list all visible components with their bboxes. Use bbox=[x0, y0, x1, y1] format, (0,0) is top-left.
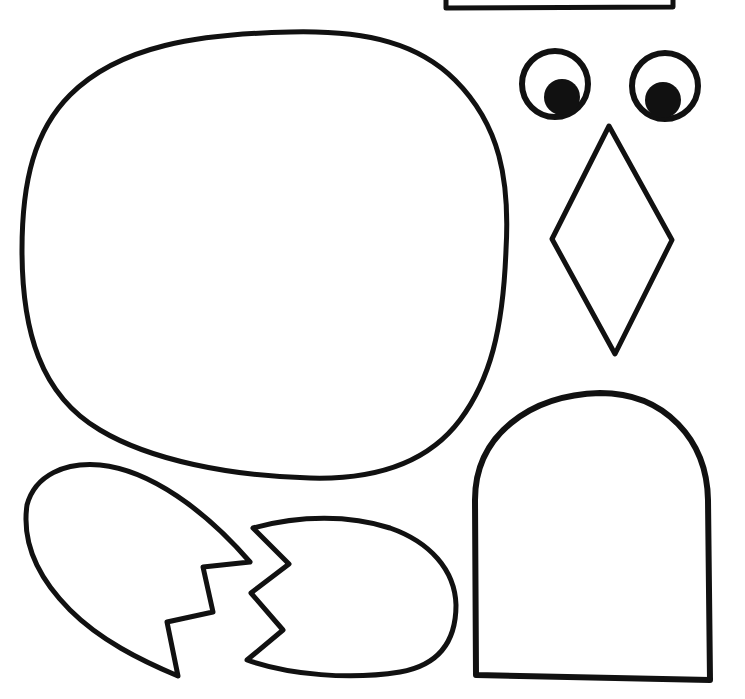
arch-piece-shape: Arch-shaped piece bbox=[475, 393, 710, 680]
beak-shape: Diamond beak bbox=[552, 126, 672, 354]
eye-left-shape: Left googly eye bbox=[522, 51, 588, 117]
craft-template-canvas: Partial rectangle (cut off at top) Round… bbox=[0, 0, 745, 699]
egg-shell-right-shape: Right egg shell half bbox=[247, 518, 456, 676]
pupil-right bbox=[645, 82, 681, 118]
top-rectangle-shape: Partial rectangle (cut off at top) bbox=[446, 0, 673, 8]
body-shape: Rounded body bbox=[22, 32, 507, 478]
pupil-left bbox=[544, 79, 580, 115]
egg-shell-left-shape: Left egg shell half bbox=[26, 465, 250, 676]
eye-right-shape: Right googly eye bbox=[632, 53, 698, 119]
